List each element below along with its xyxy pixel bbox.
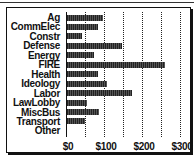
- bar: [67, 109, 99, 115]
- bar: [67, 43, 122, 49]
- bar: [67, 118, 85, 124]
- bar: [67, 81, 107, 87]
- gridline: [142, 12, 143, 137]
- category-label: FIRE: [38, 60, 60, 69]
- x-tick-label: $100: [95, 141, 116, 152]
- gridline: [123, 12, 124, 137]
- gridline: [180, 12, 181, 137]
- x-tick-label: $200: [133, 141, 154, 152]
- bar: [67, 24, 98, 30]
- bar: [67, 71, 98, 77]
- category-label: Ideology: [21, 79, 60, 88]
- bar: [67, 33, 82, 39]
- bar: [67, 52, 94, 58]
- bar: [67, 62, 165, 68]
- category-label: LawLobby: [13, 98, 60, 107]
- x-tick-label: $0: [63, 141, 74, 152]
- gridline: [161, 12, 162, 137]
- bar: [67, 15, 103, 21]
- category-label: Other: [35, 126, 60, 135]
- gridline: [104, 12, 105, 137]
- x-tick-label: $300: [171, 141, 192, 152]
- bar-chart: AgCommElecConstrDefenseEnergyFIREHealthI…: [0, 0, 194, 158]
- category-label: Defense: [23, 41, 60, 50]
- bar: [67, 90, 132, 96]
- bar: [67, 100, 87, 106]
